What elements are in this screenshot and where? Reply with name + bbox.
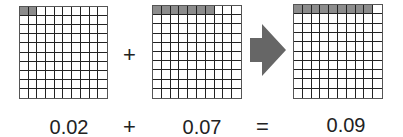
grid-cell bbox=[98, 62, 107, 71]
grid-cell bbox=[98, 53, 107, 62]
grid-cell bbox=[215, 70, 224, 79]
grid-cell bbox=[329, 89, 338, 98]
shaded-cell bbox=[329, 5, 338, 14]
grid-cell bbox=[303, 14, 312, 23]
grid-cell bbox=[171, 24, 180, 33]
grid-cell bbox=[356, 70, 365, 79]
grid-cell bbox=[347, 70, 356, 79]
shaded-cell bbox=[364, 5, 373, 14]
grid-cell bbox=[98, 80, 107, 89]
grid-sum bbox=[293, 4, 383, 99]
grid-cell bbox=[206, 15, 215, 24]
grid-cell bbox=[179, 43, 188, 52]
grid-cell bbox=[188, 70, 197, 79]
grid-cell bbox=[303, 24, 312, 33]
grid-a bbox=[19, 6, 108, 99]
grid-cell bbox=[197, 80, 206, 89]
grid-cell bbox=[171, 15, 180, 24]
grid-cell bbox=[72, 7, 81, 16]
grid-cell bbox=[72, 80, 81, 89]
grid-cell bbox=[338, 42, 347, 51]
grid-cell bbox=[373, 14, 382, 23]
grid-cell bbox=[188, 61, 197, 70]
grid-cell bbox=[153, 43, 162, 52]
grid-cell bbox=[63, 80, 72, 89]
grid-cell bbox=[162, 34, 171, 43]
grid-cell bbox=[72, 53, 81, 62]
grid-cell bbox=[232, 34, 241, 43]
grid-cell bbox=[294, 61, 303, 70]
grid-cell bbox=[356, 33, 365, 42]
grid-cell bbox=[303, 52, 312, 61]
grid-cell bbox=[338, 89, 347, 98]
grid-cell bbox=[294, 42, 303, 51]
grid-cell bbox=[188, 52, 197, 61]
grid-cell bbox=[338, 70, 347, 79]
grid-cell bbox=[373, 33, 382, 42]
grid-cell bbox=[162, 70, 171, 79]
grid-cell bbox=[347, 14, 356, 23]
shaded-cell bbox=[29, 7, 38, 16]
grid-cell bbox=[320, 24, 329, 33]
grid-cell bbox=[171, 61, 180, 70]
equals-sign: = bbox=[256, 116, 269, 137]
grid-cell bbox=[347, 24, 356, 33]
grid-cell bbox=[20, 43, 29, 52]
grid-cell bbox=[55, 89, 64, 98]
grid-cell bbox=[188, 34, 197, 43]
grid-cell bbox=[215, 34, 224, 43]
shaded-cell bbox=[338, 5, 347, 14]
grid-cell bbox=[153, 15, 162, 24]
grid-cell bbox=[373, 89, 382, 98]
grid-cell bbox=[55, 16, 64, 25]
grid-cell bbox=[72, 25, 81, 34]
grid-cell bbox=[98, 34, 107, 43]
grid-cell bbox=[90, 71, 99, 80]
grid-cell bbox=[20, 71, 29, 80]
grid-cell bbox=[29, 53, 38, 62]
shaded-cell bbox=[312, 5, 321, 14]
grid-cell bbox=[338, 52, 347, 61]
grid-cell bbox=[29, 43, 38, 52]
grid-cell bbox=[294, 70, 303, 79]
grid-cell bbox=[37, 7, 46, 16]
grid-cell bbox=[364, 52, 373, 61]
grid-cell bbox=[223, 34, 232, 43]
grid-cell bbox=[294, 79, 303, 88]
grid-cell bbox=[206, 43, 215, 52]
grid-cell bbox=[223, 89, 232, 98]
grid-cell bbox=[63, 16, 72, 25]
grid-cell bbox=[197, 89, 206, 98]
grid-cell bbox=[215, 52, 224, 61]
grid-cell bbox=[356, 89, 365, 98]
grid-cell bbox=[55, 53, 64, 62]
grid-cell bbox=[29, 25, 38, 34]
grid-cell bbox=[37, 43, 46, 52]
grid-cell bbox=[206, 61, 215, 70]
grid-cell bbox=[215, 43, 224, 52]
grid-cell bbox=[63, 34, 72, 43]
grid-cell bbox=[179, 15, 188, 24]
grid-cell bbox=[46, 62, 55, 71]
grid-cell bbox=[338, 61, 347, 70]
value-label-sum: 0.09 bbox=[321, 115, 371, 135]
right-arrow-icon bbox=[250, 24, 286, 76]
grid-cell bbox=[197, 15, 206, 24]
grid-cell bbox=[188, 15, 197, 24]
grid-cell bbox=[55, 25, 64, 34]
grid-cell bbox=[37, 34, 46, 43]
shaded-cell bbox=[206, 6, 215, 15]
grid-cell bbox=[153, 89, 162, 98]
grid-cell bbox=[356, 52, 365, 61]
grid-cell bbox=[98, 7, 107, 16]
grid-cell bbox=[364, 61, 373, 70]
grid-cell bbox=[90, 25, 99, 34]
shaded-cell bbox=[197, 6, 206, 15]
grid-cell bbox=[29, 80, 38, 89]
grid-cell bbox=[46, 89, 55, 98]
grid-cell bbox=[312, 24, 321, 33]
grid-cell bbox=[320, 89, 329, 98]
grid-cell bbox=[232, 61, 241, 70]
shaded-cell bbox=[20, 7, 29, 16]
grid-cell bbox=[215, 89, 224, 98]
